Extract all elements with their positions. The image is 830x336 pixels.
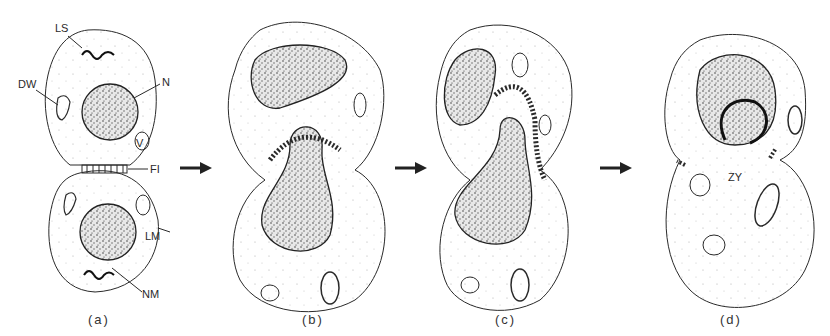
caption-a: (a) bbox=[88, 312, 110, 327]
arrow-c-to-d bbox=[600, 162, 632, 174]
panel-c: (c) bbox=[436, 25, 572, 327]
label-lm: LM bbox=[145, 230, 160, 242]
panel-a: LS DW N FI LM NM V (a) bbox=[18, 22, 170, 327]
label-fi: FI bbox=[150, 163, 160, 175]
label-nm: NM bbox=[142, 288, 159, 300]
panel-d: ZY (d) bbox=[665, 34, 814, 327]
nucleus-lower bbox=[80, 204, 136, 260]
caption-b: (b) bbox=[302, 312, 324, 327]
label-zy: ZY bbox=[728, 171, 743, 183]
caption-c: (c) bbox=[495, 312, 516, 327]
label-ls: LS bbox=[55, 22, 68, 34]
arrow-a-to-b bbox=[180, 162, 212, 174]
label-v: V bbox=[136, 137, 144, 149]
label-n: N bbox=[162, 76, 170, 88]
nucleus-upper bbox=[82, 84, 138, 140]
panel-b: (b) bbox=[228, 22, 385, 327]
caption-d: (d) bbox=[720, 312, 742, 327]
conjugation-diagram: LS DW N FI LM NM V (a) (b) bbox=[0, 0, 830, 336]
arrow-b-to-c bbox=[395, 162, 427, 174]
label-dw: DW bbox=[18, 78, 37, 90]
